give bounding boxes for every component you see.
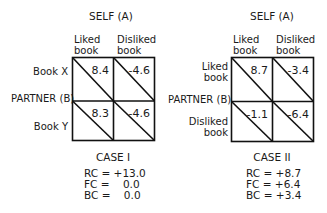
case2-partner-label: PARTNER (B) xyxy=(168,94,231,105)
case1-title: CASE I xyxy=(78,152,148,163)
case2-cell-liked-liked: 8.7 xyxy=(240,65,268,77)
case2-col-header-disliked-line2: book xyxy=(276,45,300,56)
case2-cell-liked-disliked: -3.4 xyxy=(278,65,309,77)
case2-row-label-disliked-line1: Disliked xyxy=(180,116,228,127)
case2-cell-disliked-liked: -1.1 xyxy=(240,109,268,121)
case2-col-header-disliked-line1: Disliked xyxy=(276,34,315,45)
case1-cell-y-disliked: -4.6 xyxy=(118,108,150,120)
case1-cell-x-disliked: -4.6 xyxy=(118,65,150,77)
case2-col-header-liked-line2: book xyxy=(233,45,257,56)
case2-col-header-liked-line1: Liked xyxy=(233,34,259,45)
case2-row-label-liked-line1: Liked xyxy=(180,61,228,72)
case2-self-label: SELF (A) xyxy=(250,11,294,22)
case2-stat-bc: BC = +3.4 xyxy=(246,190,301,202)
case2-cell-disliked-disliked: -6.4 xyxy=(278,109,309,121)
case2-row-label-disliked-line2: book xyxy=(180,127,228,138)
case1-stat-bc: BC = 0.0 xyxy=(84,190,141,202)
case2-title: CASE II xyxy=(237,152,307,163)
case1-cell-y-liked: 8.3 xyxy=(80,108,109,120)
case2-row-label-liked-line2: book xyxy=(180,72,228,83)
case1-cell-x-liked: 8.4 xyxy=(80,65,109,77)
